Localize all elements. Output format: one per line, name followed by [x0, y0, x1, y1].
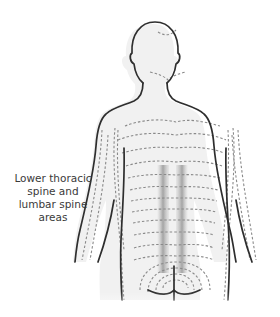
region-label: Lower thoracic spine and lumbar spine ar… — [6, 172, 100, 224]
label-line-1: Lower thoracic — [6, 172, 100, 185]
label-line-4: areas — [6, 211, 100, 224]
label-line-2: spine and — [6, 185, 100, 198]
back-anatomy-figure — [0, 0, 280, 317]
label-line-3: lumbar spine — [6, 198, 100, 211]
